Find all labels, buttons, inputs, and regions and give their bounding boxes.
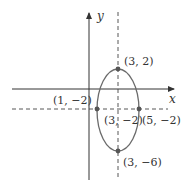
x-axis-label: x [169,92,176,106]
point-right [137,107,142,112]
label-left: (1, −2) [53,94,92,107]
label-center: (3, −2) [104,114,143,127]
point-top [116,67,121,72]
point-bottom [116,149,121,154]
y-axis-label: y [96,9,104,23]
label-right: (5, −2) [142,114,181,127]
label-bottom: (3, −6) [123,156,162,169]
point-left [95,107,100,112]
ellipse-diagram: y x (3, 2) (1, −2) (3, −2) (5, −2) (3, −… [0,0,188,189]
label-top: (3, 2) [124,55,154,68]
